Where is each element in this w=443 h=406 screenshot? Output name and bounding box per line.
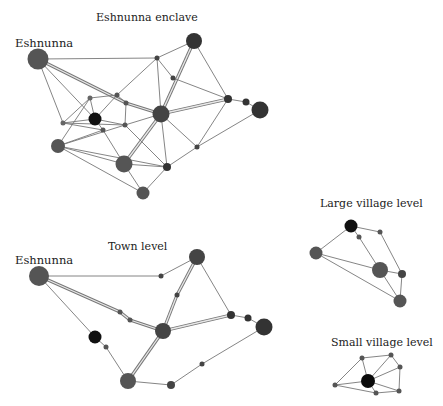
edge [202,327,264,364]
node-s1 [374,391,379,396]
node-n3 [115,93,120,98]
edge [173,78,228,99]
town-level-title: Town level [108,240,167,253]
node-w [310,247,323,260]
node-n7 [101,128,106,133]
node-s3 [195,145,200,150]
node-e2 [243,99,250,106]
node-n2 [389,353,394,358]
double-edge-inner [161,41,194,114]
edge [197,257,231,315]
node-black [345,220,358,233]
node-n8 [123,123,128,128]
node-e3 [252,102,269,119]
double-edge-inner [124,114,161,164]
node-s [394,295,407,308]
edge [197,110,260,147]
node-e1 [227,311,235,319]
node-t3 [118,310,123,315]
node-black [89,331,102,344]
node-black [361,374,375,388]
node-n1 [360,356,365,361]
node-n6 [61,121,66,126]
enclave-eshnunna-label: Eshnunna [15,36,73,50]
enclave-title: Eshnunna enclave [96,11,198,24]
node-n4 [88,96,93,101]
edge [125,103,126,125]
node-w [333,383,338,388]
node-n5 [124,101,129,106]
node-s2 [167,381,175,389]
large-village-title: Large village level [320,197,423,210]
large-village-network [310,220,407,308]
double-edge-inner [128,331,163,381]
node-eshnunna [29,266,49,286]
edge [316,226,351,253]
node-s1 [116,156,133,173]
node-center [153,106,170,123]
node-center [155,323,171,339]
node-n3 [398,365,403,370]
node-e2 [245,315,252,322]
node-e [398,270,406,278]
double-edge-inner [38,59,126,103]
edge [38,58,157,59]
town-level-network [29,249,273,389]
node-t2 [175,293,180,298]
town-eshnunna-label: Eshnunna [15,253,73,267]
edge [335,358,362,385]
node-eshnunna [28,49,49,70]
node-center [372,262,388,278]
node-v1 [378,230,383,235]
double-edge-inner [163,315,231,331]
edge [39,276,95,337]
edge [38,59,95,119]
node-ne [186,33,202,49]
node-t5 [104,345,109,350]
node-black [89,113,102,126]
edge [117,58,157,95]
node-e3 [256,319,273,336]
node-ne [189,249,205,265]
double-edge-inner [39,276,120,312]
node-n1 [155,56,160,61]
node-t6 [200,362,205,367]
edge [167,147,197,167]
node-s2 [397,389,402,394]
edge [376,391,399,393]
node-n2 [171,76,176,81]
small-village-title: Small village level [331,336,433,349]
double-edge-inner [161,99,228,114]
node-e1 [224,95,232,103]
node-t4 [128,318,133,323]
edge [194,41,228,99]
node-s4 [137,187,150,200]
edge [362,355,391,358]
small-village-network [333,353,403,396]
edge [58,146,167,167]
node-s1 [120,373,136,389]
edge [157,58,173,78]
edge [316,253,400,301]
node-t1 [159,274,164,279]
edge [399,367,400,391]
node-s2 [163,163,171,171]
node-v2 [357,235,362,240]
edge [63,98,90,123]
enclave-network [28,33,269,200]
node-w1 [51,139,65,153]
edge [171,364,202,385]
